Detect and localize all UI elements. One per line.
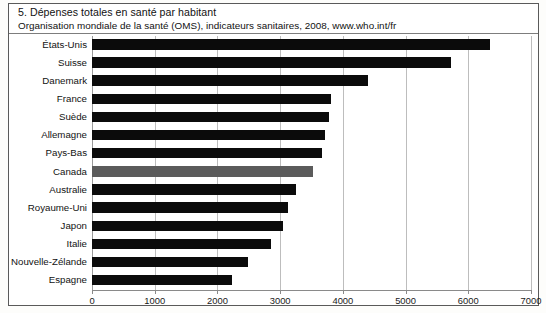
category-label: Japon bbox=[61, 219, 87, 232]
category-label: Nouvelle-Zélande bbox=[11, 255, 87, 268]
x-tick-label: 3000 bbox=[270, 295, 291, 306]
bar-row: Espagne bbox=[92, 272, 531, 290]
bar-row: États-Unis bbox=[92, 36, 531, 54]
bar bbox=[92, 202, 288, 212]
x-tick-mark bbox=[155, 290, 156, 294]
x-tick-mark bbox=[92, 290, 93, 294]
bar bbox=[92, 257, 248, 267]
bar bbox=[92, 112, 329, 122]
bar-row: Japon bbox=[92, 217, 531, 235]
gridline bbox=[531, 36, 532, 290]
plot-area: États-UnisSuisseDanemarkFranceSuèdeAllem… bbox=[92, 36, 531, 290]
x-tick-mark bbox=[406, 290, 407, 294]
bar bbox=[92, 221, 283, 231]
x-tick-label: 6000 bbox=[458, 295, 479, 306]
bar bbox=[92, 94, 331, 104]
category-label: Suède bbox=[59, 110, 87, 123]
category-label: Canada bbox=[53, 165, 87, 178]
figure-title: 5. Dépenses totales en santé par habitan… bbox=[18, 6, 523, 20]
bar bbox=[92, 57, 451, 67]
bar-row: Australie bbox=[92, 181, 531, 199]
x-tick-mark bbox=[531, 290, 532, 294]
bar-row: Canada bbox=[92, 163, 531, 181]
category-label: Italie bbox=[67, 237, 87, 250]
category-label: Pays-Bas bbox=[46, 146, 87, 159]
bar-row: France bbox=[92, 90, 531, 108]
x-tick-label: 5000 bbox=[395, 295, 416, 306]
bar bbox=[92, 75, 368, 85]
category-label: Allemagne bbox=[41, 128, 87, 141]
x-tick-label: 7000 bbox=[521, 295, 542, 306]
category-label: Danemark bbox=[42, 74, 87, 87]
bar-row: Nouvelle-Zélande bbox=[92, 254, 531, 272]
x-tick-mark bbox=[343, 290, 344, 294]
bar bbox=[92, 239, 271, 249]
x-tick-mark bbox=[280, 290, 281, 294]
bar-row: Danemark bbox=[92, 72, 531, 90]
category-label: Royaume-Uni bbox=[28, 201, 87, 214]
x-tick-mark bbox=[217, 290, 218, 294]
bar-row: Royaume-Uni bbox=[92, 199, 531, 217]
x-tick-label: 2000 bbox=[207, 295, 228, 306]
bar bbox=[92, 184, 296, 194]
x-tick-label: 4000 bbox=[332, 295, 353, 306]
category-label: France bbox=[57, 92, 87, 105]
caption-divider bbox=[9, 33, 538, 34]
bar-row: Allemagne bbox=[92, 127, 531, 145]
bar bbox=[92, 39, 490, 49]
bar bbox=[92, 166, 313, 176]
category-label: Suisse bbox=[58, 56, 87, 69]
bar-row: Suisse bbox=[92, 54, 531, 72]
x-tick-mark bbox=[468, 290, 469, 294]
category-label: Espagne bbox=[49, 273, 87, 286]
figure-caption: 5. Dépenses totales en santé par habitan… bbox=[18, 6, 523, 32]
bar bbox=[92, 148, 322, 158]
figure-container: 5. Dépenses totales en santé par habitan… bbox=[0, 0, 546, 313]
x-axis-line bbox=[92, 290, 532, 291]
category-label: Australie bbox=[49, 183, 87, 196]
x-tick-label: 0 bbox=[89, 295, 94, 306]
category-label: États-Unis bbox=[42, 38, 87, 51]
x-tick-label: 1000 bbox=[144, 295, 165, 306]
bar bbox=[92, 275, 232, 285]
figure-source: Organisation mondiale de la santé (OMS),… bbox=[18, 20, 523, 33]
bar-row: Italie bbox=[92, 236, 531, 254]
bar-row: Pays-Bas bbox=[92, 145, 531, 163]
bar-row: Suède bbox=[92, 109, 531, 127]
bar bbox=[92, 130, 325, 140]
